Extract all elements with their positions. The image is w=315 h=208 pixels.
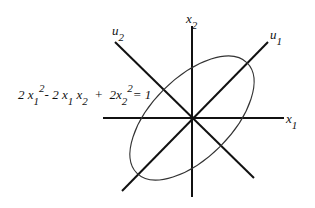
- diagram-canvas: [0, 0, 315, 208]
- x2-axis-label: x2: [186, 12, 197, 25]
- ellipse-diagram: 2 x12- 2 x1 x2 + 2x22= 1 x1 x2 u1 u2: [0, 0, 315, 208]
- u2-axis-label: u2: [112, 24, 124, 37]
- u2-axis: [115, 42, 254, 178]
- equation-label: 2 x12- 2 x1 x2 + 2x22= 1: [18, 88, 151, 101]
- origin-point: [190, 116, 194, 120]
- u1-axis: [122, 42, 268, 191]
- x1-axis-label: x1: [286, 112, 297, 125]
- u1-axis-label: u1: [270, 28, 282, 41]
